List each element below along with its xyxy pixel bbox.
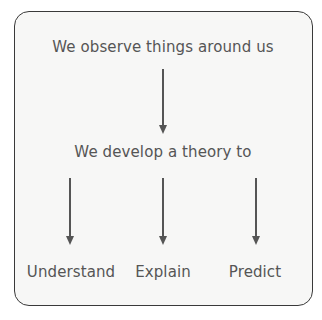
arrow-shaft: [69, 178, 71, 238]
explain-node: Explain: [135, 263, 191, 281]
arrow-down-icon: [159, 125, 167, 134]
understand-node: Understand: [27, 263, 115, 281]
arrow-down-icon: [66, 236, 74, 245]
arrow-down-icon: [159, 236, 167, 245]
predict-node: Predict: [229, 263, 281, 281]
arrow-shaft: [162, 69, 164, 127]
arrow-shaft: [255, 178, 257, 238]
arrow-shaft: [162, 178, 164, 238]
arrow-down-icon: [252, 236, 260, 245]
theory-node: We develop a theory to: [74, 143, 251, 161]
observation-node: We observe things around us: [52, 38, 273, 56]
